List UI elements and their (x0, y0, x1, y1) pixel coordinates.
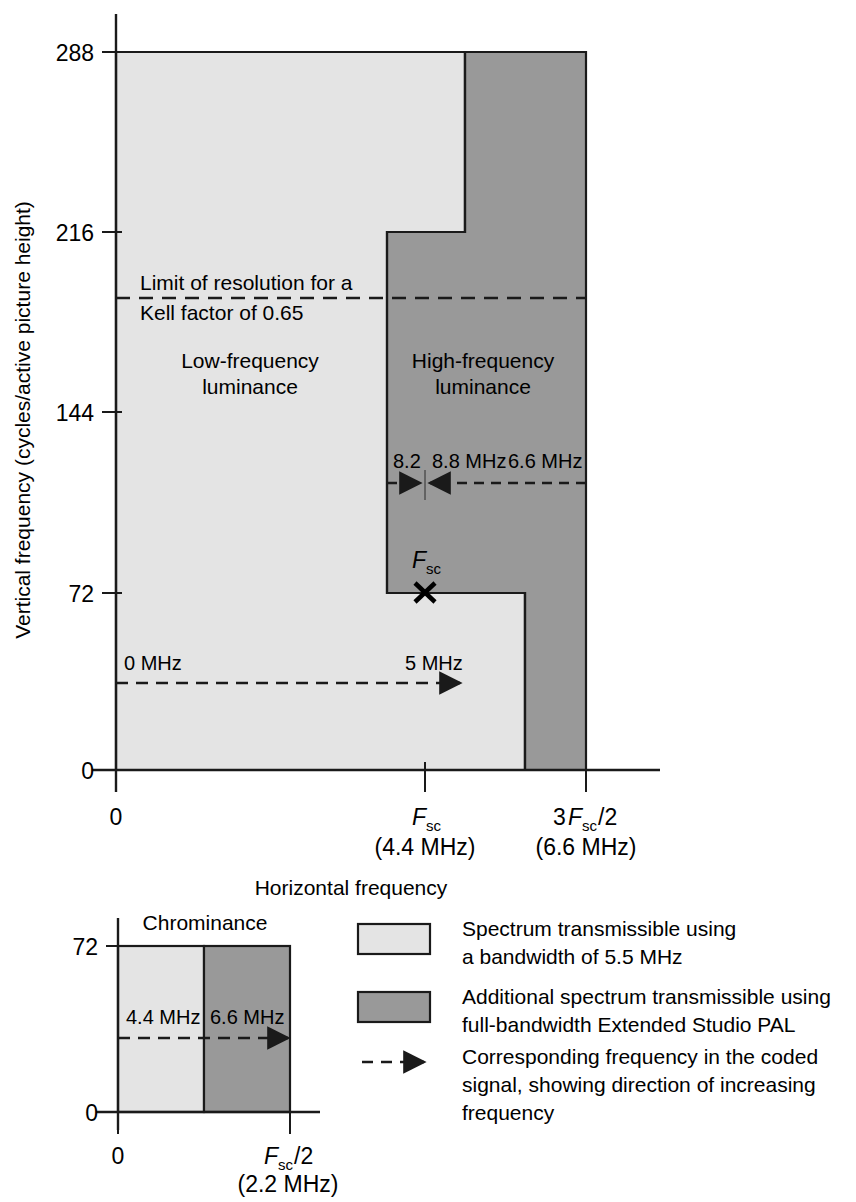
figure-container: 288 216 144 72 0 Vertical frequency (cyc… (0, 0, 856, 1202)
chroma-y-tick-label-0: 0 (85, 1100, 98, 1126)
x-tick-label-fsc: F sc (4.4 MHz) (375, 804, 476, 860)
chroma-x-tick-label-fsc2-post: /2 (294, 1143, 313, 1169)
chroma-region-light (118, 946, 204, 1112)
legend-item-2-line2: signal, showing direction of increasing (462, 1073, 816, 1096)
legend-item-0-line1: Spectrum transmissible using (462, 917, 736, 940)
legend-swatch-light (358, 924, 430, 954)
x-tick-label-3fsc-post: /2 (598, 804, 617, 830)
x-tick-label-0: 0 (110, 804, 123, 830)
label-8-2-mhz: 8.2 (393, 450, 421, 472)
chroma-chart-title: Chrominance (143, 911, 268, 934)
y-tick-label-72: 72 (68, 581, 94, 607)
chroma-label-4-4-mhz: 4.4 MHz (126, 1006, 200, 1028)
x-tick-label-3fsc-paren: (6.6 MHz) (536, 834, 637, 860)
kell-limit-label-line2: Kell factor of 0.65 (140, 301, 303, 324)
x-tick-label-fsc-paren: (4.4 MHz) (375, 834, 476, 860)
x-axis-title: Horizontal frequency (255, 876, 448, 899)
low-frequency-luminance-label-line1: Low-frequency (181, 349, 319, 372)
legend-item-1-line2: full-bandwidth Extended Studio PAL (462, 1013, 796, 1036)
x-tick-label-3fsc-2: 3 F sc /2 (6.6 MHz) (536, 804, 637, 860)
x-tick-label-3fsc-sub: sc (582, 817, 598, 834)
kell-limit-label-line1: Limit of resolution for a (140, 271, 353, 294)
label-6-6-mhz-upper: 6.6 MHz (508, 450, 582, 472)
chroma-region-dark (204, 946, 290, 1112)
legend-item-1-line1: Additional spectrum transmissible using (462, 985, 831, 1008)
label-8-8-mhz: 8.8 MHz (432, 450, 506, 472)
legend-item-0-line2: a bandwidth of 5.5 MHz (462, 945, 683, 968)
fsc-point-label-sub: sc (426, 560, 442, 577)
high-frequency-luminance-label-line2: luminance (435, 375, 531, 398)
y-tick-label-144: 144 (56, 400, 95, 426)
chroma-x-tick-label-0: 0 (112, 1143, 125, 1169)
y-tick-label-0: 0 (81, 758, 94, 784)
legend-swatch-dark (358, 992, 430, 1022)
chroma-x-tick-label-fsc2-paren: (2.2 MHz) (238, 1171, 339, 1197)
y-axis-title: Vertical frequency (cycles/active pictur… (11, 201, 34, 639)
y-tick-label-288: 288 (56, 40, 94, 66)
chroma-x-tick-label-fsc-2: F sc /2 (2.2 MHz) (238, 1143, 339, 1197)
legend-item-2-line1: Corresponding frequency in the coded (462, 1045, 818, 1068)
legend-item-2-line3: frequency (462, 1101, 555, 1124)
x-tick-label-3fsc-pre: 3 (553, 804, 566, 830)
low-frequency-luminance-label-line2: luminance (202, 375, 298, 398)
chroma-label-6-6-mhz: 6.6 MHz (210, 1006, 284, 1028)
chroma-y-tick-label-72: 72 (72, 934, 98, 960)
y-tick-label-216: 216 (56, 220, 94, 246)
high-frequency-luminance-label-line1: High-frequency (412, 349, 555, 372)
label-5-mhz: 5 MHz (405, 652, 463, 674)
x-tick-label-fsc-sub: sc (426, 817, 442, 834)
label-0-mhz: 0 MHz (124, 652, 182, 674)
